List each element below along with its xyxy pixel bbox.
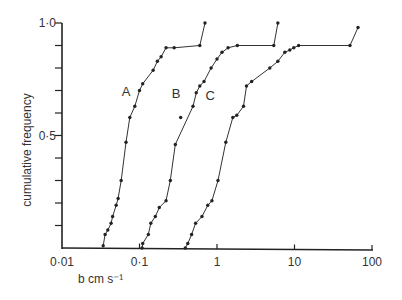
data-point <box>220 51 223 54</box>
data-point <box>216 179 219 182</box>
data-point <box>245 84 248 87</box>
data-point <box>138 89 141 92</box>
data-point <box>250 80 253 83</box>
data-point <box>191 105 194 108</box>
data-point <box>169 179 172 182</box>
curve-line <box>103 23 205 246</box>
data-point <box>133 105 136 108</box>
series-c: C <box>184 26 360 250</box>
data-point <box>194 222 197 225</box>
curve-label-b: B <box>172 86 181 101</box>
y-axis-label: cumulative frequency <box>20 93 34 206</box>
data-point <box>231 116 234 119</box>
data-point <box>149 222 152 225</box>
x-tick-label: 0·1 <box>131 255 149 269</box>
data-point <box>111 215 114 218</box>
data-point <box>242 105 245 108</box>
y-ticks <box>55 23 62 226</box>
data-point <box>124 141 127 144</box>
data-point <box>202 80 205 83</box>
y-tick-label-1-0: 1·0 <box>39 16 57 30</box>
data-point <box>184 246 187 249</box>
y-axis: 1·0 0·5 cumulative frequency <box>20 16 62 249</box>
data-point <box>210 199 213 202</box>
data-point <box>283 51 286 54</box>
data-point <box>154 215 157 218</box>
data-point <box>140 246 143 249</box>
data-point <box>288 48 291 51</box>
series-layer: ABC <box>101 21 359 249</box>
curve-line <box>185 28 358 249</box>
data-point <box>224 141 227 144</box>
data-point <box>172 46 175 49</box>
data-point <box>190 233 193 236</box>
x-ticks: 0·010·1110100 <box>50 243 382 269</box>
data-point <box>106 228 109 231</box>
data-point <box>114 204 117 207</box>
curve-label-a: A <box>122 84 131 99</box>
data-point <box>151 69 154 72</box>
x-tick-label: 10 <box>288 255 302 269</box>
data-point <box>215 57 218 60</box>
data-point <box>158 206 161 209</box>
cumulative-frequency-chart: 1·0 0·5 cumulative frequency 0·010·11101… <box>0 0 402 300</box>
data-point <box>119 179 122 182</box>
data-point <box>128 116 131 119</box>
data-point <box>164 46 167 49</box>
data-point <box>292 46 295 49</box>
data-point <box>276 60 279 63</box>
data-point <box>236 44 239 47</box>
x-tick-label: 1 <box>214 255 221 269</box>
data-point <box>103 233 106 236</box>
data-point <box>198 84 201 87</box>
data-point <box>147 233 150 236</box>
data-point <box>198 44 201 47</box>
data-point <box>276 21 279 24</box>
data-point <box>141 242 144 245</box>
data-point <box>297 44 300 47</box>
data-point <box>203 21 206 24</box>
data-point <box>174 143 177 146</box>
data-point <box>206 204 209 207</box>
data-point <box>268 66 271 69</box>
x-tick-label: 0·01 <box>50 255 74 269</box>
data-point <box>101 244 104 247</box>
data-point <box>186 242 189 245</box>
data-point <box>164 199 167 202</box>
curve-label-c: C <box>205 88 214 103</box>
data-point <box>141 82 144 85</box>
x-axis-label: b cm s⁻¹ <box>78 272 123 286</box>
data-point <box>226 46 229 49</box>
outlier-point <box>179 116 182 119</box>
data-point <box>159 55 162 58</box>
data-point <box>156 60 159 63</box>
x-axis: 0·010·1110100 b cm s⁻¹ <box>50 243 382 286</box>
y-tick-label-0-5: 0·5 <box>39 129 57 143</box>
data-point <box>209 66 212 69</box>
data-point <box>116 197 119 200</box>
data-point <box>235 114 238 117</box>
data-point <box>272 44 275 47</box>
x-tick-label: 100 <box>362 255 382 269</box>
data-point <box>109 222 112 225</box>
data-point <box>356 26 359 29</box>
data-point <box>348 44 351 47</box>
series-a: A <box>101 21 206 247</box>
data-point <box>200 215 203 218</box>
data-point <box>195 91 198 94</box>
